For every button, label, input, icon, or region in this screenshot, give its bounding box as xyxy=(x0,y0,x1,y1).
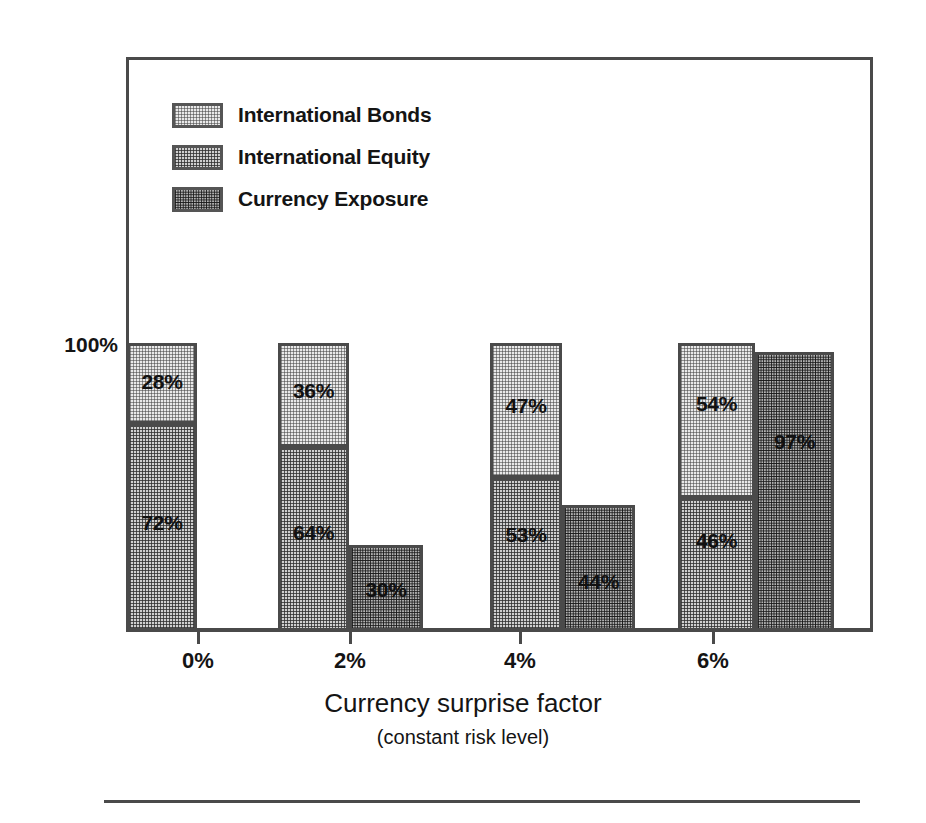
legend-label-international-bonds: International Bonds xyxy=(238,103,431,127)
bar-currency-exposure-2: 44% xyxy=(562,505,635,631)
bar-label-international-bonds-3: 54% xyxy=(681,392,752,416)
x-tick-label-3: 6% xyxy=(673,648,753,674)
x-tick-label-1: 2% xyxy=(310,648,390,674)
x-tick-label-0: 0% xyxy=(158,648,238,674)
x-tick-3 xyxy=(712,632,715,644)
x-tick-2 xyxy=(519,632,522,644)
bar-international-bonds-2: 47% xyxy=(490,343,562,478)
x-tick-1 xyxy=(349,632,352,644)
legend-label-international-equity: International Equity xyxy=(238,145,430,169)
legend-label-currency-exposure: Currency Exposure xyxy=(238,187,428,211)
bar-international-bonds-3: 54% xyxy=(678,343,755,498)
bar-international-equity-2: 53% xyxy=(490,478,562,631)
bar-label-international-bonds-1: 36% xyxy=(281,379,346,403)
bar-currency-exposure-3: 97% xyxy=(755,352,834,631)
y-tick-label-100: 100% xyxy=(26,333,118,357)
bar-label-international-equity-0: 72% xyxy=(130,511,194,535)
bar-label-international-equity-1: 64% xyxy=(281,521,346,545)
x-axis-title: Currency surprise factor xyxy=(0,688,926,719)
chart-figure: International Bonds International Equity… xyxy=(0,0,926,823)
bottom-divider-rule xyxy=(104,800,860,803)
x-axis-line xyxy=(126,628,873,632)
x-axis-subtitle: (constant risk level) xyxy=(0,726,926,749)
bar-label-currency-exposure-2: 44% xyxy=(565,570,632,594)
legend-item-international-equity: International Equity xyxy=(172,140,512,174)
legend-swatch-international-equity xyxy=(172,145,223,170)
legend-swatch-international-bonds xyxy=(172,103,223,128)
bar-international-equity-0: 72% xyxy=(127,424,197,631)
x-tick-0 xyxy=(197,632,200,644)
bar-label-international-equity-3: 46% xyxy=(681,529,752,553)
bar-international-bonds-0: 28% xyxy=(127,343,197,424)
bar-label-international-bonds-2: 47% xyxy=(493,394,559,418)
legend-item-currency-exposure: Currency Exposure xyxy=(172,182,512,216)
x-tick-label-2: 4% xyxy=(480,648,560,674)
bar-label-currency-exposure-1: 30% xyxy=(352,578,420,602)
bar-label-international-bonds-0: 28% xyxy=(130,370,194,394)
bar-international-bonds-1: 36% xyxy=(278,343,349,447)
bar-label-international-equity-2: 53% xyxy=(493,523,559,547)
legend-swatch-currency-exposure xyxy=(172,187,223,212)
legend-item-international-bonds: International Bonds xyxy=(172,98,512,132)
bar-currency-exposure-1: 30% xyxy=(349,545,423,631)
chart-legend: International Bonds International Equity… xyxy=(172,98,512,224)
bar-international-equity-3: 46% xyxy=(678,498,755,631)
bar-label-currency-exposure-3: 97% xyxy=(758,430,831,454)
bar-international-equity-1: 64% xyxy=(278,447,349,631)
